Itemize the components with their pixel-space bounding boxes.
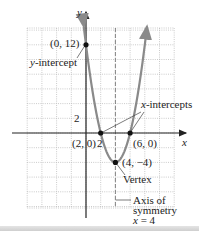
- point-label-6-0: (6, 0): [133, 138, 157, 149]
- x-intercepts-annotation: x-intercepts: [141, 99, 192, 110]
- x-intercept-callout-line-left: [101, 112, 141, 133]
- point-y-intercept: [83, 42, 88, 47]
- y-intercept-text: -intercept: [35, 56, 77, 68]
- y-intercept-point-label: (0, 12): [50, 38, 79, 49]
- grid-lines: [27, 28, 174, 208]
- x-tick-label-2: 2: [97, 138, 103, 149]
- vertex-annotation: Vertex: [123, 174, 152, 185]
- y-intercept-annotation: y-intercept: [30, 57, 77, 68]
- parabola-graph-figure: y x 2 2 (0, 12) y-intercept x-intercepts…: [0, 0, 199, 240]
- axis-eq: = 4: [138, 214, 155, 226]
- bottom-divider-bar: [0, 226, 199, 231]
- y-axis-label: y: [77, 7, 82, 18]
- y-tick-label-2: 2: [74, 113, 80, 124]
- point-vertex: [113, 160, 118, 165]
- axis-of-symmetry-line3: x = 4: [133, 215, 155, 226]
- point-label-2-0: (2, 0): [72, 138, 96, 149]
- vertex-point-label: (4, −4): [122, 157, 152, 168]
- point-x-intercept-6: [128, 130, 133, 135]
- point-x-intercept-2: [98, 130, 103, 135]
- x-intercepts-text: -intercepts: [146, 98, 192, 110]
- x-axis-label: x: [182, 137, 187, 148]
